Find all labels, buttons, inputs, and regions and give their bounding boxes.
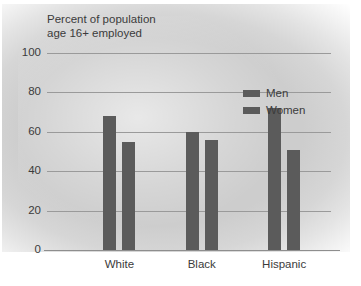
- plot-area: 020406080100WhiteBlackHispanic: [47, 53, 331, 250]
- y-axis-tick-label: 40: [28, 165, 41, 177]
- chart-title-line-1: Percent of population: [47, 12, 156, 26]
- bar-hispanic-men: [268, 108, 281, 250]
- y-axis-tick-label: 100: [22, 47, 41, 59]
- chart-legend: Men Women: [243, 86, 305, 120]
- x-axis-line: [44, 250, 340, 251]
- bar-black-women: [205, 140, 218, 250]
- y-axis-tick-label: 0: [35, 244, 41, 256]
- y-axis-tick-label: 60: [28, 126, 41, 138]
- bar-white-women: [122, 142, 135, 250]
- bar-black-men: [186, 132, 199, 250]
- chart-container: Percent of population age 16+ employed 0…: [0, 0, 361, 286]
- y-axis-tick-label: 80: [28, 87, 41, 99]
- chart-title: Percent of population age 16+ employed: [47, 12, 156, 40]
- legend-item-women: Women: [243, 103, 305, 118]
- bar-hispanic-women: [287, 150, 300, 250]
- chart-title-line-2: age 16+ employed: [47, 26, 156, 40]
- legend-swatch-men-icon: [243, 90, 260, 97]
- x-axis-label-hispanic: Hispanic: [262, 259, 306, 271]
- gridline-100: [47, 53, 331, 54]
- legend-label-men: Men: [266, 88, 288, 100]
- legend-swatch-women-icon: [243, 107, 260, 114]
- x-axis-label-black: Black: [188, 259, 216, 271]
- bar-white-men: [103, 116, 116, 250]
- y-axis-tick-label: 20: [28, 205, 41, 217]
- x-axis-label-white: White: [105, 259, 134, 271]
- legend-label-women: Women: [266, 105, 305, 117]
- legend-item-men: Men: [243, 86, 305, 101]
